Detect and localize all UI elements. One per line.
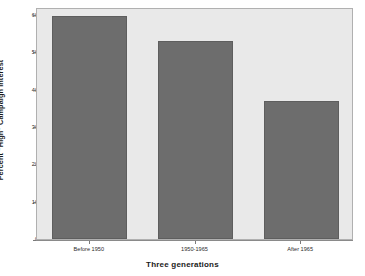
x-tick-mark [195, 241, 196, 244]
x-tick-label: Before 1950 [44, 246, 134, 252]
bar-chart-figure: Percent "High" Campaign Interest 0102030… [0, 0, 365, 276]
y-tick-label: 10 [16, 198, 38, 208]
x-tick-mark [300, 241, 301, 244]
bar [52, 16, 127, 239]
y-tick-label: 30 [16, 123, 38, 133]
y-tick-label: 50 [16, 48, 38, 58]
y-tick-label: 60 [16, 10, 38, 20]
y-tick-label: 40 [16, 85, 38, 95]
x-tick-label: 1950-1965 [150, 246, 240, 252]
y-axis-title: Percent "High" Campaign Interest [0, 0, 7, 240]
y-tick-label: 0 [16, 235, 38, 245]
x-tick-label: After 1965 [255, 246, 345, 252]
x-axis-title: Three generations [0, 260, 365, 269]
bar [264, 101, 339, 239]
bars-container [37, 9, 352, 239]
x-tick-mark [89, 241, 90, 244]
plot-area [36, 8, 353, 240]
bar [158, 41, 233, 239]
y-tick-label: 20 [16, 160, 38, 170]
